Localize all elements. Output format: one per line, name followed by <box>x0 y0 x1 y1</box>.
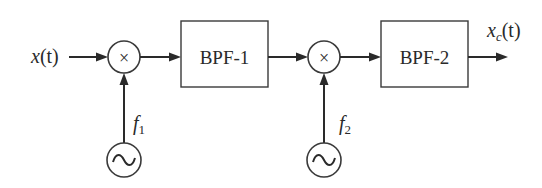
multiply-icon: × <box>319 48 329 68</box>
bpf-1-block: BPF-1 <box>181 21 268 87</box>
input-label-args: (t) <box>40 45 59 68</box>
multiply-icon: × <box>119 48 129 68</box>
f1-label-sub: 1 <box>139 122 146 137</box>
sine-wave-icon <box>313 155 335 165</box>
mixer-2: × <box>308 41 340 73</box>
block-diagram: x(t) × BPF-1 × BPF-2 <box>0 0 542 188</box>
arrow-mixer1-to-bpf1 <box>140 53 181 62</box>
mixer-1: × <box>108 41 140 73</box>
bpf-2-block: BPF-2 <box>381 21 468 87</box>
output-label-base: x <box>486 19 496 41</box>
output-arrow <box>468 53 508 62</box>
input-arrow <box>69 53 108 62</box>
f2-label-sub: 2 <box>345 122 352 137</box>
input-signal-label: x(t) <box>30 45 59 68</box>
f2-label: f2 <box>339 112 351 137</box>
sine-wave-icon <box>113 155 135 165</box>
arrow-bpf1-to-mixer2 <box>268 53 308 62</box>
output-signal-label: xc(t) <box>486 19 521 44</box>
bpf-1-label: BPF-1 <box>200 47 250 68</box>
arrow-osc1-to-mixer1 <box>120 73 129 143</box>
arrow-osc2-to-mixer2 <box>320 73 329 143</box>
oscillator-1 <box>107 143 141 177</box>
arrow-mixer2-to-bpf2 <box>340 53 381 62</box>
oscillator-2 <box>307 143 341 177</box>
output-label-args: (t) <box>502 19 521 42</box>
f1-label: f1 <box>133 112 145 137</box>
input-label-base: x <box>30 45 40 67</box>
bpf-2-label: BPF-2 <box>400 47 450 68</box>
